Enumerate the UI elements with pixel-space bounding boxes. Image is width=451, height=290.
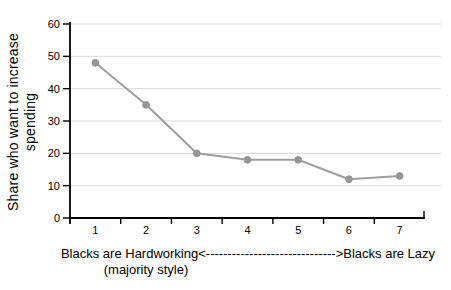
data-point-3 xyxy=(193,150,200,157)
x-axis-label-right: Blacks are Lazy xyxy=(343,246,435,261)
y-tick-label-20: 20 xyxy=(48,147,60,159)
chart: Share who want to increase spending 0102… xyxy=(0,0,451,290)
data-point-4 xyxy=(244,156,251,163)
x-axis-label: Blacks are Hardworking<-----------------… xyxy=(45,246,451,261)
x-axis-sublabel: (majority style) xyxy=(46,262,246,277)
x-tick-label-2: 2 xyxy=(143,224,149,236)
y-tick-label-40: 40 xyxy=(48,83,60,95)
x-tick-label-3: 3 xyxy=(194,224,200,236)
x-axis-label-left: Blacks are Hardworking xyxy=(61,246,198,261)
data-point-5 xyxy=(295,156,302,163)
x-tick-label-7: 7 xyxy=(397,224,403,236)
y-tick-label-60: 60 xyxy=(48,18,60,30)
data-point-2 xyxy=(143,101,150,108)
x-tick-label-1: 1 xyxy=(92,224,98,236)
y-tick-label-0: 0 xyxy=(54,212,60,224)
y-tick-label-10: 10 xyxy=(48,180,60,192)
data-point-7 xyxy=(396,173,403,180)
y-tick-label-50: 50 xyxy=(48,50,60,62)
y-tick-label-30: 30 xyxy=(48,115,60,127)
data-point-1 xyxy=(92,59,99,66)
x-tick-label-6: 6 xyxy=(346,224,352,236)
x-tick-label-5: 5 xyxy=(295,224,301,236)
x-axis-arrow: <------------------------------> xyxy=(198,246,343,261)
data-point-6 xyxy=(346,176,353,183)
x-tick-label-4: 4 xyxy=(244,224,250,236)
